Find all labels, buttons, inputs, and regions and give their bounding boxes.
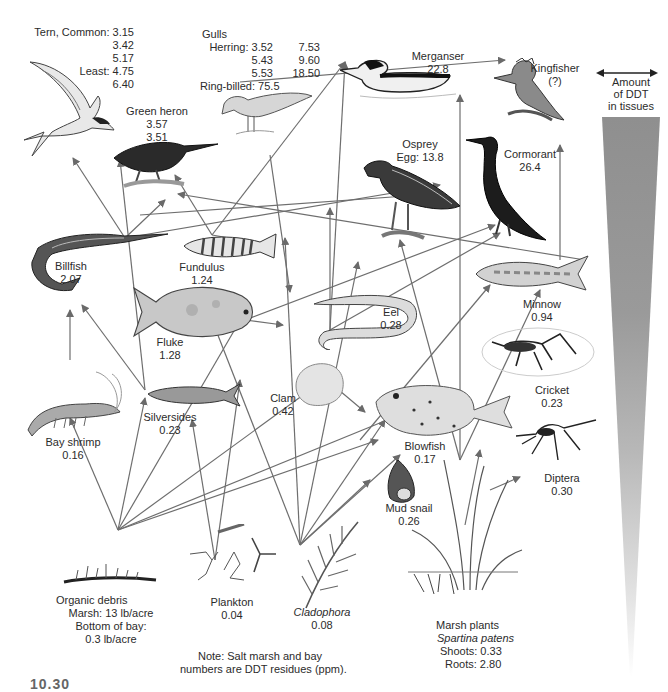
- kingfisher-label: Kingfisher (?): [526, 62, 584, 88]
- green-heron-label: Green heron 3.57 3.51: [126, 105, 188, 144]
- gulls-ring-billed-label: Ring-billed: 75.5: [200, 80, 280, 93]
- gulls-herring-values: Herring: 3.52 5.43 5.53: [200, 41, 273, 80]
- osprey-icon: [362, 158, 462, 248]
- clam-label: Clam 0.42: [266, 392, 300, 418]
- bay-shrimp-label: Bay shrimp 0.16: [38, 436, 108, 462]
- gulls-label: Gulls: [202, 28, 227, 41]
- merganser-label: Merganser 22.8: [408, 50, 468, 76]
- cormorant-label: Cormorant 26.4: [500, 148, 560, 174]
- figure-number: 10.30: [30, 676, 70, 692]
- organic-debris-icon: [62, 560, 158, 586]
- blowfish-icon: [374, 380, 514, 440]
- plankton-label: Plankton 0.04: [208, 596, 256, 622]
- minnow-icon: [474, 254, 590, 294]
- plankton-icon: [186, 524, 278, 584]
- ddt-legend-label: Amount of DDT in tissues: [594, 76, 668, 112]
- cladophora-label: Cladophora 0.08: [290, 606, 354, 632]
- cladophora-icon: [298, 520, 364, 610]
- feeding-arrow: [212, 320, 300, 545]
- ddt-amount-legend: Amount of DDT in tissues: [594, 60, 668, 680]
- billfish-label: Billfish 2.07: [50, 260, 92, 286]
- eel-label: Eel 0.28: [374, 306, 408, 332]
- cricket-icon: [480, 326, 598, 378]
- diptera-icon: [514, 414, 604, 464]
- organic-debris-values: Marsh: 13 lb/acre Bottom of bay: 0.3 lb/…: [66, 607, 156, 646]
- marsh-plants-label: Marsh plants Spartina patens Shoots: 0.3…: [436, 619, 514, 671]
- blowfish-label: Blowfish 0.17: [400, 440, 450, 466]
- mud-snail-label: Mud snail 0.26: [380, 502, 438, 528]
- clam-icon: [292, 362, 346, 408]
- fundulus-icon: [182, 230, 278, 264]
- marsh-plants-icon: [404, 460, 524, 600]
- cricket-label: Cricket 0.23: [532, 384, 572, 410]
- fluke-icon: [132, 282, 258, 342]
- gulls-herring-values-col2: 7.53 9.60 18.50: [290, 41, 320, 80]
- tern-label: Tern, Common: 3.15 3.42 5.17 Least: 4.75…: [34, 26, 134, 91]
- ddt-concentration-wedge: [602, 117, 660, 677]
- fundulus-label: Fundulus 1.24: [176, 261, 228, 287]
- feeding-arrow: [118, 440, 378, 530]
- feeding-arrow: [270, 155, 290, 292]
- organic-debris-label: Organic debris: [56, 594, 128, 607]
- bay-shrimp-icon: [26, 370, 130, 436]
- silversides-icon: [146, 382, 242, 408]
- osprey-label: Osprey Egg: 13.8: [392, 138, 448, 164]
- fluke-label: Fluke 1.28: [150, 336, 190, 362]
- green-heron-icon: [110, 136, 220, 196]
- note-text: Note: Salt marsh and bay numbers are DDT…: [180, 650, 340, 676]
- silversides-label: Silversides 0.23: [140, 411, 200, 437]
- gull-icon: [218, 90, 318, 140]
- diptera-label: Diptera 0.30: [540, 472, 584, 498]
- minnow-label: Minnow 0.94: [520, 298, 564, 324]
